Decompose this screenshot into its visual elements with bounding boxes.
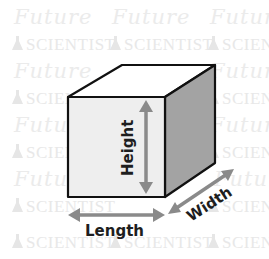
length-label: Length: [85, 222, 144, 240]
watermark-text: SCIENTIST: [222, 233, 269, 252]
watermark-text: Future: [111, 5, 191, 29]
watermark-text: Future: [13, 59, 93, 83]
watermark-row: Future Future Future: [13, 5, 269, 29]
watermark-text: SCIENTIST: [26, 197, 116, 216]
watermark-text: SCIENTIST: [222, 143, 269, 162]
cube: [68, 65, 215, 197]
watermark-text: SCIENTIST: [124, 35, 214, 54]
watermark-text: Future: [209, 113, 269, 137]
height-label: Height: [119, 120, 137, 176]
watermark-text: SCIENTIST: [222, 35, 269, 54]
watermark-text: SCIENTIST: [222, 89, 269, 108]
watermark-row: SCIENTIST SCIENTIST SCIENTIST: [26, 233, 269, 252]
watermark-text: Future: [209, 59, 269, 83]
watermark-text: Future: [209, 5, 269, 29]
watermark-row: SCIENTIST SCIENTIST: [26, 197, 269, 216]
diagram-canvas: Future Future Future SCIENTIST SCIENTIST…: [0, 0, 269, 259]
cube-dimensions-diagram: Future Future Future SCIENTIST SCIENTIST…: [0, 0, 269, 259]
watermark-text: Future: [13, 5, 93, 29]
watermark-text: SCIENTIST: [26, 35, 116, 54]
watermark-row: SCIENTIST SCIENTIST SCIENTIST: [26, 35, 269, 54]
